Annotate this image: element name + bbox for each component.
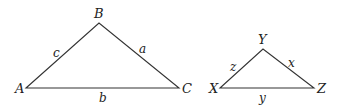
side-label-y: y xyxy=(258,91,266,105)
side-label-z: z xyxy=(229,60,237,74)
side-label-b: b xyxy=(99,91,107,105)
vertex-label-y: Y xyxy=(258,32,268,47)
vertex-label-x: X xyxy=(208,81,219,96)
side-label-c: c xyxy=(53,46,60,60)
triangle-abc-outline xyxy=(26,23,179,88)
vertex-label-a: A xyxy=(14,81,24,96)
side-label-a: a xyxy=(139,42,146,56)
similar-triangles-diagram: A B C c a b X Y Z z x y xyxy=(0,0,342,110)
vertex-label-z: Z xyxy=(316,81,327,96)
vertex-label-c: C xyxy=(182,81,192,96)
triangle-xyz: X Y Z z x y xyxy=(208,32,327,105)
vertex-label-b: B xyxy=(93,6,104,21)
triangle-abc: A B C c a b xyxy=(14,6,192,105)
side-label-x: x xyxy=(288,56,295,70)
